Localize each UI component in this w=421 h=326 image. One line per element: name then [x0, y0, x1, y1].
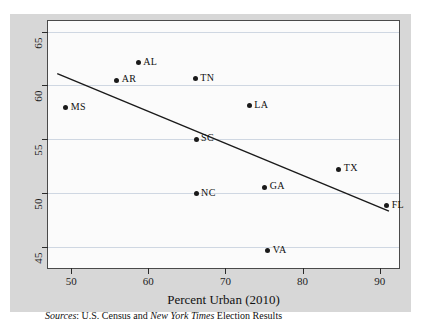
data-point-label: SC [201, 132, 214, 143]
x-tick-label: 70 [210, 275, 240, 287]
data-point-label: VA [273, 244, 287, 255]
y-tick-label: 55 [32, 138, 44, 162]
x-tick-mark [380, 268, 381, 274]
x-axis-title: Percent Urban (2010) [47, 292, 400, 308]
plot-area: 45505560655060708090 MSARALTNLASCTXGANCF… [47, 20, 400, 269]
figure-panel: 45505560655060708090 MSARALTNLASCTXGANCF… [10, 14, 411, 312]
x-tick-mark [71, 268, 72, 274]
data-point-label: MS [71, 101, 86, 112]
x-tick-label: 80 [288, 275, 318, 287]
data-point-label: TX [344, 162, 358, 173]
source-note-part2: Election Results [214, 310, 282, 321]
x-tick-label: 90 [365, 275, 395, 287]
source-note-part1: U.S. Census and [82, 310, 151, 321]
data-point-label: AR [122, 73, 137, 84]
data-point-label: GA [270, 180, 285, 191]
y-tick-label: 65 [32, 31, 44, 55]
data-point-label: TN [200, 72, 214, 83]
source-note: Sources: U.S. Census and New York Times … [45, 310, 282, 321]
y-tick-label: 50 [32, 192, 44, 216]
x-tick-mark [303, 268, 304, 274]
x-tick-mark [225, 268, 226, 274]
data-point [194, 137, 199, 142]
x-tick-label: 60 [133, 275, 163, 287]
y-tick-label: 45 [32, 246, 44, 270]
data-point [114, 78, 119, 83]
source-note-prefix: Sources [45, 310, 76, 321]
data-point-label: NC [201, 187, 216, 198]
data-point-label: LA [254, 99, 268, 110]
x-tick-mark [148, 268, 149, 274]
y-tick-label: 60 [32, 84, 44, 108]
data-point-label: AL [143, 56, 157, 67]
data-point-label: FL [392, 199, 404, 210]
source-note-italic-source: New York Times [150, 310, 214, 321]
x-tick-label: 50 [56, 275, 86, 287]
trendline [48, 21, 399, 268]
